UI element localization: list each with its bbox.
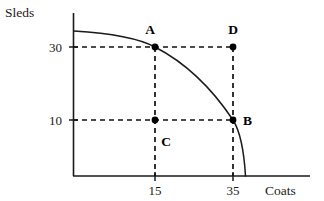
chart-tick-labels: 30 10 15 35 (49, 40, 240, 198)
ppf-chart-figure: A D C B 30 10 15 35 Sleds Coats (0, 0, 324, 201)
chart-axes (73, 13, 310, 176)
point-b-dot (230, 117, 237, 124)
point-label-c: C (161, 134, 171, 149)
point-a-dot (152, 44, 159, 51)
y-axis-title: Sleds (5, 5, 34, 20)
chart-guide-lines (73, 47, 233, 176)
ppf-chart-svg: A D C B 30 10 15 35 Sleds Coats (0, 0, 324, 201)
x-tick-label-35: 35 (227, 183, 240, 198)
chart-point-labels: A D C B (145, 22, 252, 149)
point-c-dot (152, 117, 159, 124)
ppf-curve (74, 31, 246, 176)
point-label-a: A (145, 22, 155, 37)
y-tick-label-10: 10 (49, 113, 62, 128)
x-tick-label-15: 15 (149, 183, 162, 198)
point-label-b: B (243, 113, 252, 128)
y-tick-label-30: 30 (49, 40, 62, 55)
x-axis-title: Coats (265, 183, 296, 198)
point-d-dot (230, 44, 237, 51)
chart-tick-marks (69, 47, 233, 181)
chart-data-points (152, 44, 237, 124)
point-label-d: D (228, 22, 238, 37)
